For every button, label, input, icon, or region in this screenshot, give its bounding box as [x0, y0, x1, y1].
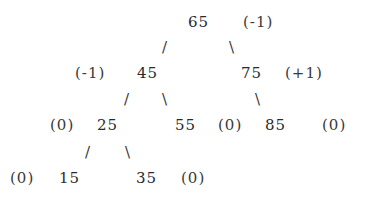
node-key-15: 15 — [59, 169, 80, 187]
balance-factor-45: (-1) — [75, 64, 105, 82]
balance-factor-15: (0) — [10, 169, 34, 187]
edge-25-15: / — [85, 143, 90, 161]
balance-factor-65: (-1) — [243, 13, 273, 31]
edge-75-85: \ — [255, 90, 260, 108]
node-key-55: 55 — [175, 116, 196, 134]
balance-factor-35: (0) — [181, 169, 205, 187]
edge-65-45: / — [162, 38, 167, 56]
edge-25-35: \ — [125, 143, 130, 161]
edge-45-25: / — [124, 90, 129, 108]
balance-factor-25: (0) — [50, 116, 74, 134]
balance-factor-85: (0) — [322, 116, 346, 134]
balance-factor-55: (0) — [218, 116, 242, 134]
node-key-75: 75 — [241, 64, 262, 82]
edge-65-75: \ — [229, 38, 234, 56]
balance-factor-75: (+1) — [285, 64, 323, 82]
node-key-45: 45 — [137, 64, 158, 82]
node-key-25: 25 — [97, 116, 118, 134]
node-key-85: 85 — [265, 116, 286, 134]
edge-45-55: \ — [162, 90, 167, 108]
node-key-65: 65 — [188, 13, 209, 31]
node-key-35: 35 — [136, 169, 157, 187]
